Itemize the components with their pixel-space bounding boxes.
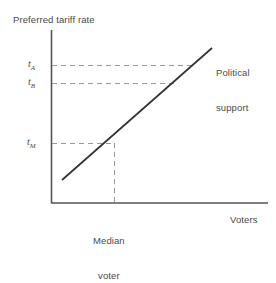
y-tick-label-tm-subscript: M	[30, 142, 36, 150]
political-support-label-line1: Political	[216, 67, 250, 79]
y-tick-label-ta-subscript: A	[31, 64, 35, 72]
y-tick-label-tb: tB	[28, 76, 35, 90]
political-support-label-line2: support	[216, 102, 250, 114]
political-support-line	[62, 48, 212, 180]
y-axis-label: Preferred tariff rate	[13, 14, 95, 25]
y-tick-label-tb-subscript: B	[31, 82, 35, 90]
y-tick-label-tm: tM	[27, 136, 36, 150]
median-voter-label-line2: voter	[93, 270, 125, 282]
x-axis-label: Voters	[230, 214, 258, 225]
median-voter-label: Median voter	[93, 212, 125, 283]
y-tick-label-ta: tA	[28, 58, 35, 72]
political-support-label: Political support	[216, 44, 250, 136]
median-voter-label-line1: Median	[93, 235, 125, 247]
